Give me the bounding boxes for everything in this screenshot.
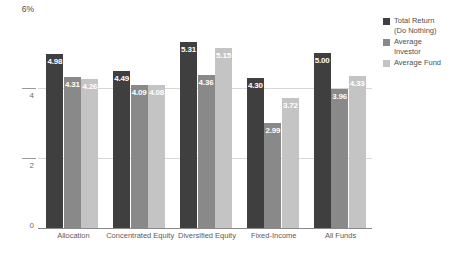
bar-group: 4.302.993.72 — [247, 18, 301, 228]
bar-group: 5.003.964.33 — [314, 18, 368, 228]
bar-value-label: 5.00 — [314, 56, 331, 65]
bar[interactable]: 4.98 — [46, 54, 63, 228]
y-axis-label-2: 2 — [4, 161, 34, 170]
bar-value-label: 4.26 — [81, 82, 98, 91]
bar-value-label: 5.15 — [215, 51, 232, 60]
bar-value-label: 4.09 — [131, 88, 148, 97]
legend-label: Average Fund — [394, 58, 455, 68]
tick-stub-4 — [22, 88, 36, 89]
y-axis-label-0: 0 — [4, 221, 34, 230]
legend-swatch-icon — [383, 60, 390, 67]
bar[interactable]: 4.30 — [247, 78, 264, 229]
bar[interactable]: 3.96 — [331, 89, 348, 228]
bar-value-label: 2.99 — [264, 126, 281, 135]
bar-groups: 4.984.314.26Allocation4.494.094.08Concen… — [38, 18, 372, 228]
y-axis-label-top: 6% — [4, 4, 34, 14]
bar[interactable]: 4.33 — [349, 76, 366, 228]
bar[interactable]: 4.31 — [64, 77, 81, 228]
bar-value-label: 4.36 — [198, 78, 215, 87]
bar-group: 4.984.314.26 — [46, 18, 100, 228]
bar-value-label: 3.96 — [331, 92, 348, 101]
legend-item[interactable]: AverageInvestor — [383, 37, 455, 57]
bar[interactable]: 4.36 — [198, 75, 215, 228]
legend-label-continued: Investor — [394, 47, 455, 57]
bar[interactable]: 5.15 — [215, 48, 232, 228]
x-axis-category-label: All Funds — [300, 231, 382, 240]
bar[interactable]: 2.99 — [264, 123, 281, 228]
axis-baseline — [38, 228, 372, 229]
bar[interactable]: 4.08 — [148, 85, 165, 228]
bar[interactable]: 4.09 — [131, 85, 148, 228]
bar-value-label: 4.98 — [46, 57, 63, 66]
bar-value-label: 4.33 — [349, 79, 366, 88]
legend-item[interactable]: Total Return(Do Nothing) — [383, 16, 455, 36]
legend-swatch-icon — [383, 18, 390, 25]
bar[interactable]: 5.00 — [314, 53, 331, 228]
chart-legend: Total Return(Do Nothing)AverageInvestorA… — [383, 16, 455, 70]
bar[interactable]: 4.49 — [113, 71, 130, 228]
plot-area: 4 2 0 6% 4.984.314.26Allocation4.494.094… — [38, 18, 372, 228]
bar-value-label: 5.31 — [180, 45, 197, 54]
bar[interactable]: 4.26 — [81, 79, 98, 228]
bar-group: 4.494.094.08 — [113, 18, 167, 228]
bar-chart: 4 2 0 6% 4.984.314.26Allocation4.494.094… — [0, 0, 456, 258]
bar-value-label: 4.49 — [113, 74, 130, 83]
bar[interactable]: 5.31 — [180, 42, 197, 228]
bar-value-label: 4.08 — [148, 88, 165, 97]
bar-value-label: 3.72 — [282, 101, 299, 110]
bar-group: 5.314.365.15 — [180, 18, 234, 228]
bar-value-label: 4.31 — [64, 80, 81, 89]
legend-label: Total Return — [394, 16, 455, 26]
legend-item[interactable]: Average Fund — [383, 58, 455, 69]
y-axis-label-4: 4 — [4, 91, 34, 100]
bar[interactable]: 3.72 — [282, 98, 299, 228]
tick-stub-2 — [22, 158, 36, 159]
bar-value-label: 4.30 — [247, 81, 264, 90]
legend-label: Average — [394, 37, 455, 47]
legend-swatch-icon — [383, 39, 390, 46]
legend-label-continued: (Do Nothing) — [394, 26, 455, 36]
